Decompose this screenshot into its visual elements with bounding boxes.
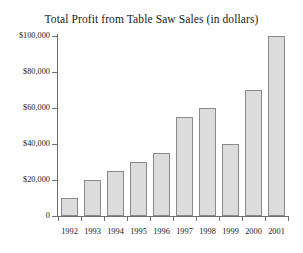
y-axis-line bbox=[57, 34, 58, 217]
y-axis-tick-label: $20,000 bbox=[0, 175, 50, 185]
bar-1999 bbox=[222, 144, 239, 216]
y-axis-tick-label: $100,000 bbox=[0, 31, 50, 41]
y-axis-tick-label-text: $100,000 bbox=[0, 31, 50, 40]
x-axis-tick-label: 2001 bbox=[262, 227, 292, 236]
x-axis-tick bbox=[58, 216, 59, 221]
x-axis-tick bbox=[219, 216, 220, 221]
y-axis-tick-label: $60,000 bbox=[0, 103, 50, 113]
bar-1995 bbox=[130, 162, 147, 216]
y-axis-tick-label-text: $20,000 bbox=[0, 175, 50, 184]
x-axis-tick bbox=[104, 216, 105, 221]
y-axis-tick-label-text: $80,000 bbox=[0, 67, 50, 76]
bar-chart-figure: Total Profit from Table Saw Sales (in do… bbox=[0, 0, 303, 253]
bar-1997 bbox=[176, 117, 193, 216]
y-axis-tick-label-text: $60,000 bbox=[0, 103, 50, 112]
x-axis-tick bbox=[196, 216, 197, 221]
y-axis-tick-label: $40,000 bbox=[0, 139, 50, 149]
y-axis-tick-label-text: $40,000 bbox=[0, 139, 50, 148]
x-axis-tick bbox=[81, 216, 82, 221]
bar-1992 bbox=[61, 198, 78, 216]
bar-2001 bbox=[268, 36, 285, 216]
y-axis-tick bbox=[52, 144, 58, 145]
bar-1993 bbox=[84, 180, 101, 216]
x-axis-tick bbox=[242, 216, 243, 221]
y-axis-tick-label: $80,000 bbox=[0, 67, 50, 77]
y-axis-tick bbox=[52, 108, 58, 109]
y-axis-tick-label: 0 bbox=[0, 211, 50, 221]
bar-1998 bbox=[199, 108, 216, 216]
x-axis-tick bbox=[265, 216, 266, 221]
bar-1996 bbox=[153, 153, 170, 216]
x-axis-tick bbox=[173, 216, 174, 221]
x-axis-tick bbox=[150, 216, 151, 221]
y-axis-tick bbox=[52, 72, 58, 73]
bar-1994 bbox=[107, 171, 124, 216]
y-axis-tick bbox=[52, 36, 58, 37]
chart-title: Total Profit from Table Saw Sales (in do… bbox=[0, 13, 303, 25]
bar-2000 bbox=[245, 90, 262, 216]
y-axis-tick-label-text: 0 bbox=[0, 211, 50, 220]
x-axis-tick bbox=[288, 216, 289, 221]
x-axis-tick bbox=[127, 216, 128, 221]
y-axis-tick bbox=[52, 180, 58, 181]
